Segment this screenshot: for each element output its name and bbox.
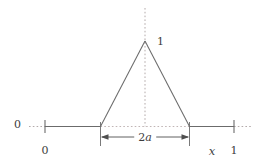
base-width-arrowhead-left [101,134,109,139]
x-axis-label: x [209,146,216,158]
x-tick-one-label: 1 [231,145,238,156]
base-width-arrowhead-right [182,134,190,139]
base-width-number: 2 [138,131,145,144]
apex-height-label: 1 [157,36,164,47]
triangle-left-edge [101,41,146,127]
base-width-variable: a [145,131,152,144]
base-width-label: 2a [134,132,156,143]
y-axis-zero-label: 0 [14,119,21,130]
triangle-right-edge [145,41,190,127]
plot-svg [0,0,271,168]
x-tick-zero-label: 0 [42,145,49,156]
figure-canvas: 0 1 0 1 x 2a [0,0,271,168]
